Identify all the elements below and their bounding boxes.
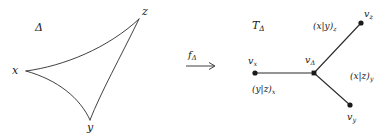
triangle-vertex-label-y: y xyxy=(87,122,93,133)
tree-vertex-label-vdelta: vΔ xyxy=(305,55,315,66)
tree-edge-label-gromov-x-text: (y|z) xyxy=(252,84,272,94)
tree-region-label-sub: Δ xyxy=(259,24,264,33)
map-arrow xyxy=(186,63,215,70)
tree-edge-label-gromov-z: (x|y)z xyxy=(313,22,336,32)
tree-vertex-dot-vdelta xyxy=(312,71,317,76)
figure-canvas: Δ x y z fΔ TΔ vx vΔ vz vy (y|z)x (x|y)z … xyxy=(0,0,391,138)
map-arrow-label-sub: Δ xyxy=(192,54,197,62)
map-arrow-label: fΔ xyxy=(188,50,197,62)
tree-vertex-label-vy-sub: y xyxy=(352,116,356,124)
tree-edge-label-gromov-z-sub: z xyxy=(333,25,336,32)
geodesic-side-xy xyxy=(26,71,90,120)
triangle-region-label: Δ xyxy=(35,22,43,33)
tree-vertex-dot-vz xyxy=(358,20,363,25)
tree-vertex-label-vx-sub: x xyxy=(253,60,257,68)
tree-edge-label-gromov-y: (x|z)y xyxy=(350,72,373,82)
geodesic-side-zy xyxy=(90,19,139,120)
tree-edge-label-gromov-y-text: (x|z) xyxy=(350,71,370,81)
geodesic-triangle xyxy=(26,19,139,120)
tree-vertex-label-vz: vz xyxy=(364,9,373,20)
tree-edge-label-gromov-z-text: (x|y) xyxy=(313,21,333,31)
triangle-vertex-label-z: z xyxy=(142,6,148,17)
tree-region-label: TΔ xyxy=(252,20,265,33)
tree-vertex-label-vx: vx xyxy=(248,56,257,67)
tree-vertex-label-vz-sub: z xyxy=(369,13,372,21)
triangle-vertex-label-x: x xyxy=(12,65,18,76)
tree-edge-label-gromov-y-sub: y xyxy=(370,75,373,82)
tree-vertex-label-vdelta-sub: Δ xyxy=(310,59,315,67)
tree-vertex-label-vy: vy xyxy=(347,112,356,123)
tree-edge-label-gromov-x: (y|z)x xyxy=(252,85,275,95)
tree-vertex-dot-vx xyxy=(252,70,257,75)
tree-vertex-dot-vy xyxy=(347,102,352,107)
tree-edge-label-gromov-x-sub: x xyxy=(272,88,275,95)
tree-edge-vdelta-vy xyxy=(314,73,350,105)
